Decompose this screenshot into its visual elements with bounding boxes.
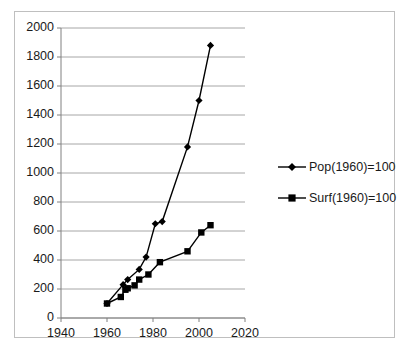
y-axis-ticks-group [57,28,61,318]
x-tick-label-1960: 1960 [81,327,133,340]
gridlines-group [61,28,245,318]
y-tick-label-1800: 1800 [26,50,54,63]
x-axis-ticks-group [61,318,245,322]
y-tick-label-1200: 1200 [26,137,54,150]
legend-label-1: Surf(1960)=100 [309,192,396,205]
data-point-1-4 [131,282,137,288]
data-point-0-5 [152,220,159,227]
data-point-1-3 [125,285,131,291]
data-point-1-6 [145,271,151,277]
series-markers-group [103,42,214,307]
data-point-1-0 [104,300,110,306]
y-tick-label-0: 0 [47,311,54,324]
data-point-1-7 [157,259,163,265]
x-tick-label-2000: 2000 [173,327,225,340]
legend-item-0: Pop(1960)=100 [277,160,396,174]
legend-marker-square-icon [277,191,307,205]
y-tick-label-800: 800 [33,195,54,208]
data-point-0-9 [207,42,214,49]
y-tick-label-1400: 1400 [26,108,54,121]
y-tick-label-400: 400 [33,253,54,266]
data-point-1-9 [198,229,204,235]
data-point-0-8 [195,97,202,104]
data-point-1-1 [118,294,124,300]
y-tick-label-1600: 1600 [26,79,54,92]
x-tick-label-2020: 2020 [219,327,271,340]
y-tick-label-1000: 1000 [26,166,54,179]
data-point-0-6 [159,218,166,225]
x-tick-label-1980: 1980 [127,327,179,340]
data-point-1-8 [184,248,190,254]
y-tick-label-2000: 2000 [26,21,54,34]
legend-label-0: Pop(1960)=100 [309,161,396,174]
y-tick-label-200: 200 [33,282,54,295]
y-tick-label-600: 600 [33,224,54,237]
legend-marker-diamond-icon [277,160,307,174]
x-tick-label-1940: 1940 [35,327,87,340]
chart-plot-canvas [0,0,409,354]
data-point-1-5 [136,276,142,282]
data-point-1-10 [207,222,213,228]
legend-item-1: Surf(1960)=100 [277,191,396,205]
